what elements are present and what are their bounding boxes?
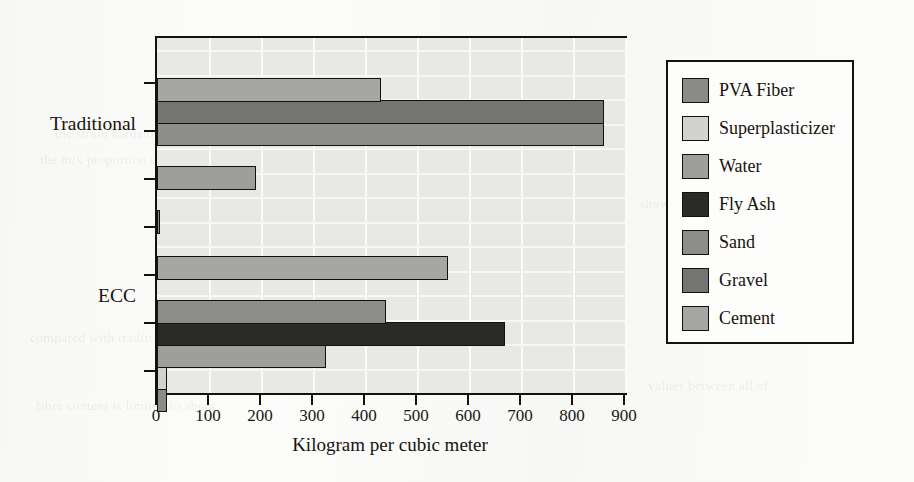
plot-area [155,36,627,395]
x-axis-title: Kilogram per cubic meter [155,434,625,456]
legend-item-gravel[interactable]: Gravel [682,261,852,299]
chart-legend: PVA FiberSuperplasticizerWaterFly AshSan… [666,60,854,344]
bar-cement-ecc [157,256,448,280]
x-axis-tick-label: 800 [559,406,585,426]
legend-label: Fly Ash [719,194,776,215]
legend-item-pva-fiber[interactable]: PVA Fiber [682,71,852,109]
bar-superplasticizer-ecc [157,366,167,390]
bar-series-container [157,38,625,393]
legend-swatch-icon [682,78,709,103]
x-axis-tick-label: 300 [299,406,325,426]
x-axis-tick [571,394,573,405]
x-axis-tick-label: 900 [611,406,637,426]
legend-swatch-icon [682,154,709,179]
legend-item-water[interactable]: Water [682,147,852,185]
bar-cement-traditional [157,78,381,102]
x-axis-tick-label: 200 [247,406,273,426]
x-axis-tick [467,394,469,405]
legend-item-superplasticizer[interactable]: Superplasticizer [682,109,852,147]
x-axis-tick-label: 500 [403,406,429,426]
x-axis-tick [259,394,261,405]
legend-label: PVA Fiber [719,80,794,101]
bar-sand-traditional [157,122,604,146]
legend-label: Cement [719,308,775,329]
x-axis-tick [207,394,209,405]
x-axis-tick-label: 700 [507,406,533,426]
legend-label: Gravel [719,270,768,291]
bar-gravel-traditional [157,100,604,124]
legend-swatch-icon [682,306,709,331]
bar-sand-ecc [157,300,386,324]
x-axis-tick [155,394,157,405]
x-axis-ticks: 0100200300400500600700800900 [155,394,627,406]
legend-swatch-icon [682,268,709,293]
bar-water-traditional [157,166,256,190]
x-axis-tick-label: 600 [455,406,481,426]
legend-swatch-icon [682,192,709,217]
x-axis-tick-label: 100 [195,406,221,426]
legend-swatch-icon [682,230,709,255]
x-axis-tick-label: 0 [152,406,161,426]
x-axis-tick [363,394,365,405]
legend-item-sand[interactable]: Sand [682,223,852,261]
x-axis-tick-label: 400 [351,406,377,426]
legend-item-fly-ash[interactable]: Fly Ash [682,185,852,223]
bar-pva-fiber-traditional [157,210,160,234]
bar-water-ecc [157,344,326,368]
gridline-vertical [625,38,627,393]
legend-label: Water [719,156,762,177]
category-label-ecc: ECC [0,285,136,307]
legend-label: Superplasticizer [719,118,835,139]
x-axis-tick [623,394,625,405]
x-axis-tick [519,394,521,405]
legend-item-cement[interactable]: Cement [682,299,852,337]
x-axis-tick [311,394,313,405]
legend-label: Sand [719,232,755,253]
category-label-traditional: Traditional [0,113,136,135]
x-axis-tick [415,394,417,405]
bar-fly-ash-ecc [157,322,505,346]
legend-swatch-icon [682,116,709,141]
